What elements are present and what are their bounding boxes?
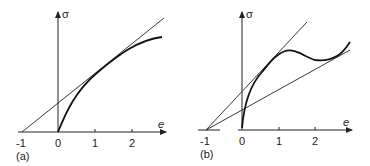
tick-label: -1 bbox=[16, 137, 26, 149]
curve bbox=[58, 37, 162, 132]
y-label: σ bbox=[62, 8, 69, 20]
tick-label: 1 bbox=[276, 135, 282, 147]
lower-tangent bbox=[206, 50, 350, 130]
tick-label: 0 bbox=[239, 135, 245, 147]
x-label: e bbox=[158, 118, 164, 130]
tick-label: 2 bbox=[312, 135, 318, 147]
panel-caption: (b) bbox=[200, 148, 213, 160]
tick-label: -1 bbox=[200, 135, 210, 147]
x-label: e bbox=[343, 116, 349, 128]
y-label: σ bbox=[246, 8, 253, 20]
tangent-line bbox=[22, 18, 164, 132]
panel-caption: (a) bbox=[16, 150, 29, 162]
panel-a: σ e -1 0 1 2 (a) bbox=[16, 8, 166, 162]
tick-label: 1 bbox=[92, 137, 98, 149]
upper-tangent bbox=[206, 22, 307, 130]
curve bbox=[242, 42, 350, 128]
tick-label: 2 bbox=[129, 137, 135, 149]
panel-b: σ e -1 0 1 2 (b) bbox=[198, 8, 352, 160]
tick-label: 0 bbox=[55, 137, 61, 149]
figure: σ e -1 0 1 2 (a) σ e -1 0 1 2 (b) bbox=[0, 0, 370, 166]
